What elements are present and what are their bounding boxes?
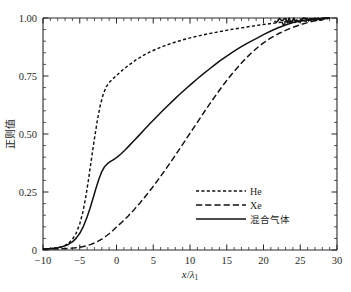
legend-label-3: 混合气体 <box>250 214 290 225</box>
legend-label-1: He <box>250 186 262 197</box>
y-tick-label: 0.25 <box>19 187 37 198</box>
x-tick-label: 25 <box>295 255 306 266</box>
y-tick-label: 1.00 <box>19 13 37 24</box>
x-axis-title: x/λ1 <box>181 268 199 282</box>
x-tick-label: −5 <box>74 255 85 266</box>
x-tick-label: 15 <box>222 255 233 266</box>
x-tick-label: 30 <box>332 255 343 266</box>
y-axis-title-group: 正则值 <box>4 119 16 149</box>
x-tick-label: 5 <box>151 255 156 266</box>
chart-figure: −10−5051015202530 00.250.500.751.00 HeXe… <box>0 0 351 292</box>
y-tick-label: 0.50 <box>19 129 37 140</box>
x-tick-label: 10 <box>185 255 196 266</box>
x-tick-label: 0 <box>114 255 119 266</box>
y-axis-tick-labels: 00.250.500.751.00 <box>19 13 37 256</box>
x-axis-tick-labels: −10−5051015202530 <box>35 255 342 266</box>
legend-label-2: Xe <box>250 200 262 211</box>
y-axis-title: 正则值 <box>4 119 16 149</box>
y-tick-label: 0 <box>32 245 37 256</box>
x-axis-title-group: x/λ1 <box>181 268 199 282</box>
x-tick-label: −10 <box>35 255 51 266</box>
y-tick-label: 0.75 <box>19 71 37 82</box>
x-tick-label: 20 <box>258 255 269 266</box>
chart-canvas: −10−5051015202530 00.250.500.751.00 HeXe… <box>0 0 351 292</box>
